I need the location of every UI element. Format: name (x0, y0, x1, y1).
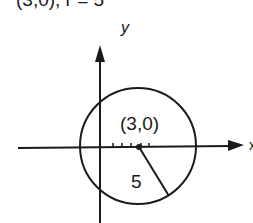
x-axis: x (18, 137, 253, 153)
radius-label: 5 (131, 171, 142, 192)
x-axis-label: x (249, 137, 253, 153)
circle-diagram: (3,0), r = 5 y x (3,0) (0, 0, 253, 223)
radius-line (139, 147, 169, 196)
y-axis-label: y (120, 19, 130, 36)
center-label: (3,0) (120, 113, 159, 134)
x-axis-arrow-icon (228, 140, 244, 151)
y-axis-arrow-icon (95, 45, 105, 62)
caption: (3,0), r = 5 (16, 0, 104, 10)
